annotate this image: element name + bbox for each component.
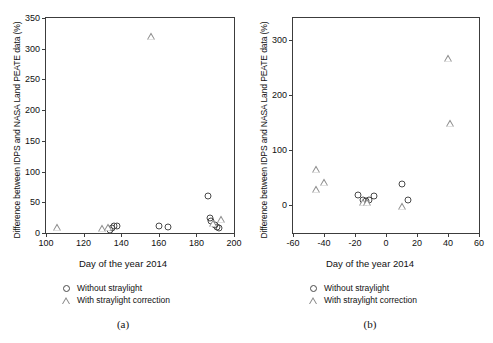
x-tick-label: 200 [226,238,241,248]
data-point-triangle [320,179,328,186]
y-tick [42,18,46,19]
legend-label-with-a: With straylight correction [77,295,170,305]
data-point-circle [215,225,222,232]
y-tick-label: 200 [272,90,287,100]
panel-a: Difference between IDPS and NASA Land PE… [0,0,246,343]
y-tick [42,172,46,173]
panel-b: Difference between IDPS and NASA Land PE… [247,0,493,343]
data-point-circle [365,196,372,203]
data-point-circle [155,222,162,229]
y-tick [42,141,46,142]
data-point-circle [359,196,366,203]
y-tick [289,205,293,206]
x-tick [479,233,480,237]
x-tick-label: 120 [76,238,91,248]
y-axis-title-b: Difference between IDPS and NASA Land PE… [257,14,271,246]
x-tick [386,233,387,237]
data-point-triangle [217,216,225,223]
data-point-circle [404,197,411,204]
data-point-circle [108,225,115,232]
x-tick [46,233,47,237]
x-tick-label: 20 [412,238,422,248]
y-axis-title-a: Difference between IDPS and NASA Land PE… [10,14,24,246]
data-point-circle [110,223,117,230]
legend-label-without-a: Without straylight [77,283,142,293]
y-tick-label: 100 [25,167,40,177]
x-tick [355,233,356,237]
data-point-circle [106,226,113,233]
x-tick-label: -20 [348,238,361,248]
data-point-circle [370,192,377,199]
data-point-circle [398,181,405,188]
data-point-triangle [98,225,106,232]
x-tick [293,233,294,237]
y-tick-label: 200 [25,105,40,115]
y-tick-label: 0 [282,200,287,210]
y-tick [42,110,46,111]
y-tick-label: 300 [25,44,40,54]
data-point-circle [204,192,211,199]
data-point-circle [114,223,121,230]
data-point-triangle [312,185,320,192]
x-tick-label: 180 [189,238,204,248]
data-point-circle [214,224,221,231]
legend-label-with-b: With straylight correction [324,295,417,305]
data-point-circle [362,198,369,205]
x-tick [324,233,325,237]
data-point-triangle [398,202,406,209]
x-axis-title-b: Day of the year 2014 [247,258,493,269]
data-point-triangle [209,219,217,226]
y-tick-label: 150 [25,136,40,146]
open-triangle-marker-icon [302,297,324,304]
data-point-circle [355,191,362,198]
y-tick [42,49,46,50]
y-tick-label: 300 [272,35,287,45]
panel-caption-a: (a) [0,318,246,330]
open-circle-marker-icon [55,285,77,292]
plot-area-b: 0100200300-60-40-200204060 [292,17,480,234]
data-point-triangle [53,223,61,230]
legend-b: Without straylight With straylight corre… [302,282,417,306]
legend-item-with-straylight-b: With straylight correction [302,294,417,306]
y-tick [42,79,46,80]
x-tick-label: 40 [443,238,453,248]
y-tick [42,202,46,203]
y-tick-label: 100 [272,145,287,155]
legend-item-without-straylight-b: Without straylight [302,282,417,294]
y-tick-label: 250 [25,74,40,84]
open-circle-marker-icon [302,285,324,292]
x-tick-label: 0 [383,238,388,248]
data-point-circle [206,214,213,221]
x-tick [448,233,449,237]
data-point-triangle [363,198,371,205]
plot-area-a: 050100150200250300350100120140160180200 [45,17,235,234]
x-tick-label: 160 [151,238,166,248]
legend-label-without-b: Without straylight [324,283,389,293]
legend-item-without-straylight-a: Without straylight [55,282,170,294]
y-tick [289,40,293,41]
y-tick [289,95,293,96]
data-point-circle [208,217,215,224]
x-tick-label: 60 [474,238,484,248]
x-tick-label: 100 [38,238,53,248]
data-point-triangle [312,165,320,172]
y-tick [289,150,293,151]
open-triangle-marker-icon [55,297,77,304]
x-tick [121,233,122,237]
x-tick [417,233,418,237]
data-point-circle [165,223,172,230]
data-point-triangle [104,224,112,231]
legend-a: Without straylight With straylight corre… [55,282,170,306]
y-tick-label: 350 [25,13,40,23]
x-tick [159,233,160,237]
x-tick [84,233,85,237]
data-point-circle [212,222,219,229]
figure-root: Difference between IDPS and NASA Land PE… [0,0,493,343]
legend-item-with-straylight-a: With straylight correction [55,294,170,306]
x-tick [196,233,197,237]
x-tick-label: 140 [114,238,129,248]
data-point-triangle [147,32,155,39]
x-tick-label: -60 [286,238,299,248]
data-point-triangle [444,54,452,61]
x-tick [234,233,235,237]
